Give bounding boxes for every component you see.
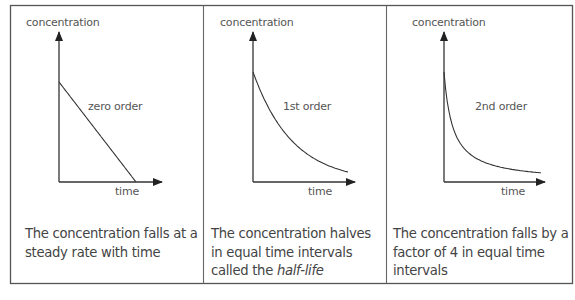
x-axis-label-zero-order: time: [115, 185, 139, 198]
second-order-curve: [444, 72, 541, 173]
y-axis-label-second-order: concentration: [412, 16, 486, 29]
x-axis-label-first-order: time: [308, 185, 332, 198]
curve-label-zero-order: zero order: [88, 100, 142, 113]
zero-order-line: [59, 82, 136, 182]
y-axis-label-first-order: concentration: [220, 16, 294, 29]
description-first-order: The concentration halves in equal time i…: [211, 225, 386, 281]
first-order-curve: [253, 72, 348, 172]
curve-label-first-order: 1st order: [283, 100, 331, 113]
curve-label-second-order: 2nd order: [475, 100, 527, 113]
half-life-term: half-life: [277, 263, 324, 278]
x-axis-label-second-order: time: [501, 185, 525, 198]
description-second-order: The concentration falls by a factor of 4…: [393, 225, 571, 281]
description-zero-order: The concentration falls at a steady rate…: [25, 225, 200, 262]
y-axis-label-zero-order: concentration: [26, 16, 100, 29]
